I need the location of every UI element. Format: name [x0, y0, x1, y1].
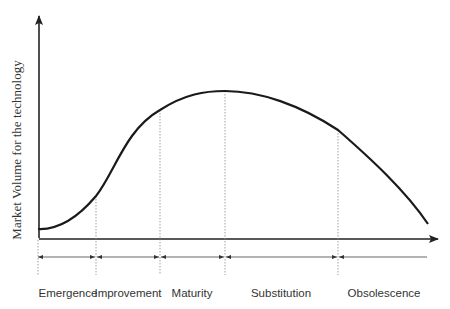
life-cycle-curve: [38, 91, 428, 229]
phase-label-substitution: Substitution: [251, 287, 311, 299]
phase-label-improvement: Improvement: [94, 287, 161, 299]
phase-label-obsolescence: Obsolescence: [348, 287, 421, 299]
phase-label-maturity: Maturity: [172, 287, 213, 299]
y-axis-label: Market Volume for the technology: [9, 60, 25, 239]
life-cycle-diagram: [0, 0, 450, 309]
phase-boundary-guides: [38, 91, 338, 275]
phase-label-emergence: Emergence: [39, 287, 98, 299]
